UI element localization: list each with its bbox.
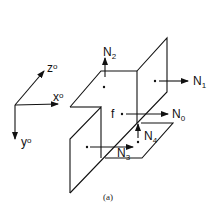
normal-vectors bbox=[90, 58, 188, 147]
n1-label: N1 bbox=[193, 74, 207, 90]
n2-label: N2 bbox=[103, 45, 117, 61]
bottom-plane bbox=[105, 123, 173, 158]
n3-label: N3 bbox=[117, 146, 131, 162]
y-axis-label: yo bbox=[21, 135, 32, 149]
figure-caption: (a) bbox=[103, 192, 113, 202]
z-axis-label: zo bbox=[47, 61, 58, 75]
z-axis-arrow bbox=[15, 71, 44, 105]
right-vertical-plane bbox=[70, 38, 167, 193]
step-surface bbox=[70, 38, 173, 193]
top-plane bbox=[70, 71, 137, 107]
n0-label: N0 bbox=[172, 107, 186, 123]
n4-label: N4 bbox=[144, 129, 158, 145]
surface-normals-diagram: zo xo yo N2 N1 N0 N4 N3 f (a) bbox=[0, 0, 216, 212]
x-axis-label: xo bbox=[53, 90, 64, 104]
left-vertical-plane bbox=[70, 107, 101, 193]
coordinate-axes bbox=[15, 71, 58, 139]
f-label: f bbox=[111, 107, 115, 121]
x-axis-arrow bbox=[15, 104, 58, 105]
